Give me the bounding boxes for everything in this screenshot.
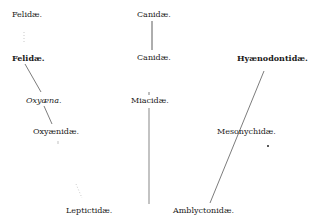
dot-marker [267,145,269,147]
edge-hyaenodontidae-amblyctonidae [210,71,264,203]
edge-felidae-oxyaena [25,64,41,92]
label-mesonychidae: Mesonychidæ. [217,127,276,137]
label-leptictidae: Leptictidæ. [66,206,112,216]
label-miacidae: Miacidæ. [131,96,169,106]
label-hyaenodontidae: Hyænodontidæ. [237,53,308,63]
label-oxyaenidae: Oxyænidæ. [33,127,79,137]
label-canidae-top: Canidæ. [137,10,171,20]
label-felidae: Felidæ. [12,53,45,63]
tree-edges [0,0,311,222]
label-felidae-top: Felidæ. [12,10,42,20]
label-amblyctonidae: Amblyctonidæ. [173,206,234,216]
edge-oxyaena-oxyaenidae [44,106,52,124]
label-canidae: Canidæ. [137,53,171,63]
label-oxyaena: Oxyæna. [26,96,62,106]
edge-leptictidae-stub [76,184,82,198]
